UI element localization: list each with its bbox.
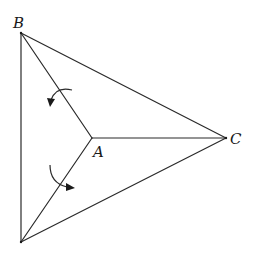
upper-rotation-arrow-icon — [47, 89, 72, 107]
vertex-c-dot — [225, 137, 227, 139]
label-b: B — [12, 14, 24, 32]
edge-b-c — [21, 33, 226, 138]
edge-bottom-c — [21, 138, 226, 242]
edge-a-bottom — [21, 138, 92, 242]
vertex-bottom-dot — [20, 241, 22, 243]
triangle-diagram: B A C — [0, 0, 262, 260]
label-a: A — [91, 143, 104, 161]
vertex-b-dot — [20, 32, 22, 34]
label-c: C — [230, 130, 242, 148]
edge-a-b — [21, 33, 92, 138]
